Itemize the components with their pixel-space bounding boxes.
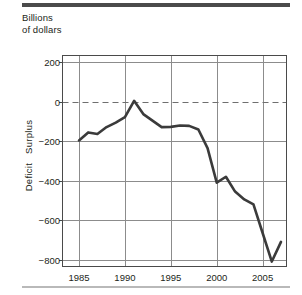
x-tick-1990: 1990 [114, 272, 135, 283]
gridlines [59, 56, 287, 267]
plot-frame [63, 56, 287, 267]
y-tick-label: −200 [39, 136, 60, 147]
y-tick-label: −400 [39, 175, 60, 186]
x-tick-1995: 1995 [160, 272, 181, 283]
y-tick-label: 200 [44, 57, 60, 68]
x-tick-2000: 2000 [206, 272, 227, 283]
plot-area [0, 0, 302, 295]
y-tick-label: −800 [39, 254, 60, 265]
chart-figure: Billions of dollars Deficit Surplus 2000… [0, 0, 302, 295]
x-tick-2005: 2005 [252, 272, 273, 283]
y-tick-label: −600 [39, 215, 60, 226]
x-tick-1985: 1985 [68, 272, 89, 283]
plot-svg [0, 0, 302, 295]
y-tick-label: 0 [55, 96, 60, 107]
